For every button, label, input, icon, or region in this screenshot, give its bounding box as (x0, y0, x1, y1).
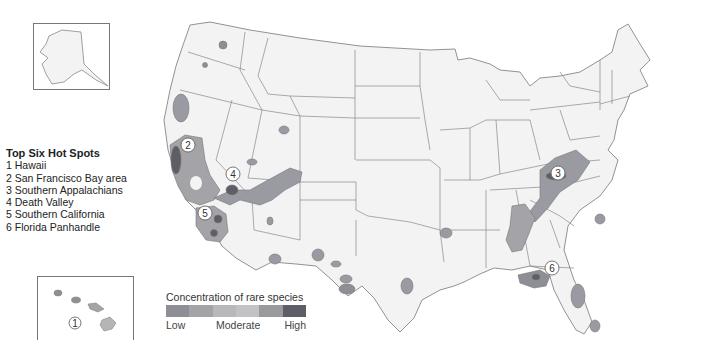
svg-text:4: 4 (230, 169, 236, 180)
concentration-legend: Concentration of rare species Low Modera… (166, 291, 306, 333)
hotspots-legend: Top Six Hot Spots 1 Hawaii 2 San Francis… (6, 147, 127, 233)
alaska-inset (33, 23, 110, 90)
swatch-2 (189, 305, 212, 317)
hotspot-item: 1 Hawaii (6, 159, 127, 171)
marker-3[interactable]: 3 (551, 166, 565, 180)
label-low: Low (166, 319, 185, 331)
hotspot-item: 2 San Francisco Bay area (6, 172, 127, 184)
hotspots-legend-title: Top Six Hot Spots (6, 147, 127, 159)
hotspot-item: 3 Southern Appalachians (6, 184, 127, 196)
svg-text:2: 2 (185, 140, 191, 151)
marker-4[interactable]: 4 (226, 167, 240, 181)
concentration-legend-title: Concentration of rare species (166, 291, 306, 303)
swatch-1 (166, 305, 189, 317)
marker-6[interactable]: 6 (545, 261, 559, 275)
svg-text:3: 3 (555, 168, 561, 179)
marker-1[interactable]: 1 (72, 318, 78, 329)
marker-2[interactable]: 2 (181, 138, 195, 152)
hotspot-item: 4 Death Valley (6, 196, 127, 208)
label-moderate: Moderate (216, 319, 260, 331)
svg-text:5: 5 (202, 208, 208, 219)
svg-text:6: 6 (549, 263, 555, 274)
swatch-6 (283, 305, 306, 317)
hawaii-inset: 1 (37, 276, 134, 340)
hotspot-item: 6 Florida Panhandle (6, 221, 127, 233)
hawaii-shape: 1 (38, 277, 133, 340)
concentration-color-bar (166, 305, 306, 317)
swatch-4 (236, 305, 259, 317)
swatch-3 (213, 305, 236, 317)
label-high: High (284, 319, 306, 331)
marker-5[interactable]: 5 (198, 206, 212, 220)
hotspot-item: 5 Southern California (6, 208, 127, 220)
swatch-5 (259, 305, 282, 317)
alaska-shape (34, 24, 109, 89)
